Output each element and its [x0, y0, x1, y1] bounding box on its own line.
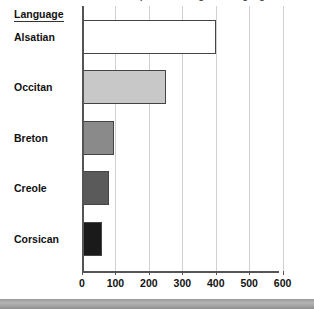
bar-creole — [82, 171, 109, 205]
x-tick-label-0: 0 — [79, 277, 85, 289]
x-tick-300 — [182, 271, 183, 275]
x-tick-400 — [216, 271, 217, 275]
x-tick-label-300: 300 — [174, 277, 192, 289]
category-label-creole: Creole — [14, 182, 47, 194]
gridline-500 — [249, 6, 250, 271]
bar-chart: Estimated number of speakers of regional… — [0, 0, 314, 309]
y-axis-line — [82, 6, 84, 272]
bar-alsatian — [82, 20, 216, 54]
x-tick-500 — [249, 271, 250, 275]
x-tick-label-500: 500 — [240, 277, 258, 289]
category-axis-header: Language — [14, 8, 64, 22]
x-tick-label-400: 400 — [207, 277, 225, 289]
bar-occitan — [82, 70, 166, 104]
x-tick-600 — [283, 271, 284, 275]
bar-corsican — [82, 222, 102, 256]
gridline-400 — [216, 6, 217, 271]
chart-title-clipped: Estimated number of speakers of regional… — [0, 0, 314, 3]
x-tick-label-600: 600 — [274, 277, 292, 289]
x-tick-0 — [82, 271, 83, 275]
category-label-breton: Breton — [14, 132, 48, 144]
category-label-corsican: Corsican — [14, 233, 59, 245]
x-tick-label-100: 100 — [107, 277, 125, 289]
bottom-band — [0, 299, 314, 309]
x-tick-100 — [115, 271, 116, 275]
x-tick-200 — [149, 271, 150, 275]
bar-breton — [82, 121, 114, 155]
category-label-occitan: Occitan — [14, 81, 53, 93]
plot-area — [82, 6, 296, 271]
category-label-alsatian: Alsatian — [14, 31, 55, 43]
gridline-600 — [283, 6, 284, 271]
x-tick-label-200: 200 — [140, 277, 158, 289]
